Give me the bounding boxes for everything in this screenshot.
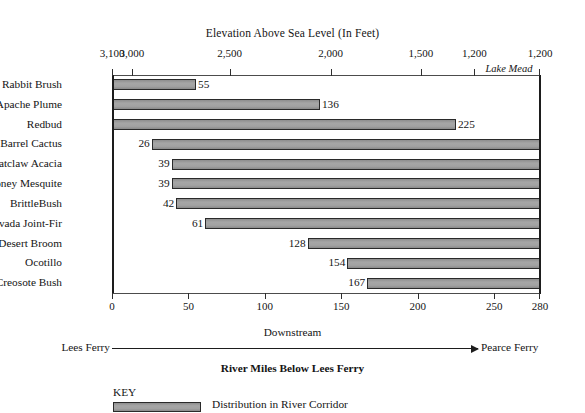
- bar-value-label: 61: [192, 214, 205, 234]
- bar: [367, 278, 540, 289]
- bottom-axis-tick-label: 50: [183, 300, 194, 312]
- top-axis-tick-label: 1,200: [462, 47, 487, 59]
- bar-value-label: 154: [328, 253, 347, 273]
- top-axis-tick: [112, 69, 113, 76]
- bar-value-label: 55: [196, 75, 209, 95]
- bar: [205, 218, 540, 229]
- bar: [112, 79, 196, 90]
- top-axis-tick: [421, 69, 422, 76]
- plot-right-axis: [539, 75, 541, 294]
- category-label: Desert Broom: [0, 234, 62, 254]
- bottom-axis-tick: [341, 293, 342, 299]
- bar-row: BrittleBush42: [112, 194, 540, 214]
- category-label: Redbud: [27, 115, 62, 135]
- bar-value-label: 167: [348, 273, 367, 293]
- bar-value-label: 136: [320, 95, 339, 115]
- bar-value-label: 39: [158, 174, 171, 194]
- downstream-arrow-row: Lees Ferry Pearce Ferry: [0, 341, 585, 355]
- bar: [112, 119, 456, 130]
- bar-value-label: 225: [456, 115, 475, 135]
- bar-row: Desert Broom128: [112, 234, 540, 254]
- pearce-ferry-label: Pearce Ferry: [481, 341, 538, 353]
- top-axis-tick-label: 3,000: [119, 47, 144, 59]
- category-label: BrittleBush: [10, 194, 62, 214]
- lees-ferry-label: Lees Ferry: [61, 341, 110, 353]
- bottom-axis-tick-label: 200: [409, 300, 426, 312]
- bar-row: Honey Mesquite39: [112, 174, 540, 194]
- bottom-axis-line: [112, 293, 540, 294]
- bottom-axis-tick: [494, 293, 495, 299]
- bottom-axis-tick: [418, 293, 419, 299]
- plot-area: Rabbit Brush55Apache Plume136Redbud225Ba…: [112, 75, 540, 293]
- bar-value-label: 42: [163, 194, 176, 214]
- top-axis-tick: [230, 69, 231, 76]
- chart-title: Elevation Above Sea Level (In Feet): [0, 27, 585, 39]
- bar-value-label: 128: [289, 234, 308, 254]
- category-label: Nevada Joint-Fir: [0, 214, 62, 234]
- category-label: Honey Mesquite: [0, 174, 62, 194]
- downstream-label: Downstream: [0, 326, 585, 338]
- key-heading: KEY: [113, 386, 136, 398]
- top-axis-tick-label: 1,200: [528, 47, 553, 59]
- bottom-axis-tick: [265, 293, 266, 299]
- bottom-axis-tick-label: 250: [486, 300, 503, 312]
- top-axis-tick: [539, 69, 540, 76]
- top-axis-tick-label: 2,000: [318, 47, 343, 59]
- bar-row: Ocotillo154: [112, 253, 540, 273]
- lake-mead-annotation: Lake Mead: [486, 63, 533, 74]
- category-label: Catclaw Acacia: [0, 154, 62, 174]
- bar-row: Redbud225: [112, 115, 540, 135]
- category-label: Creosote Bush: [0, 273, 62, 293]
- top-axis-tick-label: 2,500: [217, 47, 242, 59]
- bar-value-label: 26: [138, 134, 151, 154]
- bar: [172, 178, 540, 189]
- category-label: Barrel Cactus: [0, 134, 62, 154]
- bar-row: Catclaw Acacia39: [112, 154, 540, 174]
- key-swatch: [113, 402, 201, 412]
- bar-row: Nevada Joint-Fir61: [112, 214, 540, 234]
- category-label: Rabbit Brush: [2, 75, 62, 95]
- key-entry-label: Distribution in River Corridor: [212, 398, 348, 410]
- bar-row: Rabbit Brush55: [112, 75, 540, 95]
- bottom-axis-tick-label: 280: [532, 300, 549, 312]
- bar: [347, 258, 540, 269]
- bar-row: Apache Plume136: [112, 95, 540, 115]
- top-axis-tick: [331, 69, 332, 76]
- bar: [308, 238, 540, 249]
- plot-left-axis: [112, 75, 114, 294]
- bottom-axis-tick-label: 150: [333, 300, 350, 312]
- bar: [112, 99, 320, 110]
- bottom-axis-tick: [112, 293, 113, 299]
- arrow-head-icon: [471, 345, 479, 353]
- bar: [152, 139, 540, 150]
- bar: [176, 198, 540, 209]
- top-axis-tick-label: 1,500: [408, 47, 433, 59]
- arrow-line: [112, 348, 478, 349]
- category-label: Ocotillo: [25, 253, 62, 273]
- top-axis-tick: [132, 69, 133, 76]
- bar: [172, 159, 540, 170]
- bottom-axis-tick-label: 100: [257, 300, 274, 312]
- top-axis-tick: [474, 69, 475, 76]
- top-axis-tick-labels: 3,1003,0002,5002,0001,5001,2001,200: [0, 47, 585, 62]
- bar-row: Creosote Bush167: [112, 273, 540, 293]
- category-label: Apache Plume: [0, 95, 62, 115]
- bottom-axis-tick-label: 0: [109, 300, 115, 312]
- bar-value-label: 39: [158, 154, 171, 174]
- bottom-axis-tick-labels: 050100150200250280: [0, 300, 585, 314]
- bottom-axis-tick: [539, 293, 540, 299]
- bottom-axis-tick: [188, 293, 189, 299]
- x-axis-caption: River Miles Below Lees Ferry: [0, 362, 585, 374]
- bar-row: Barrel Cactus26: [112, 134, 540, 154]
